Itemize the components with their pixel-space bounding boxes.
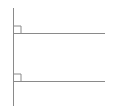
perpendicular-lines-diagram (0, 0, 113, 106)
right-angle-marker-top (14, 26, 22, 34)
right-angle-marker-bottom (14, 74, 22, 82)
